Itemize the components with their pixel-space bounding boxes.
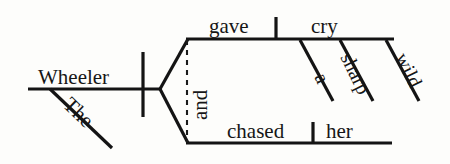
verb-upper-word: gave (209, 14, 249, 38)
object-lower-word: her (326, 119, 353, 143)
object-modifier-wild-word: wild (391, 49, 426, 91)
fork-upper-arm (160, 39, 188, 89)
diagram-canvas: WheelerThegavecryasharpwildandchasedher (0, 0, 450, 164)
object-upper-word: cry (311, 14, 338, 38)
subject-modifier-word: The (59, 92, 99, 132)
fork-lower-arm (160, 89, 188, 143)
verb-lower-word: chased (227, 119, 285, 143)
conjunction-word: and (188, 89, 212, 120)
subject-word: Wheeler (38, 65, 109, 89)
diagram-label-layer: WheelerThegavecryasharpwildandchasedher (38, 14, 427, 143)
object-modifier-sharp-word: sharp (336, 49, 376, 98)
sentence-diagram: WheelerThegavecryasharpwildandchasedher (0, 0, 450, 164)
